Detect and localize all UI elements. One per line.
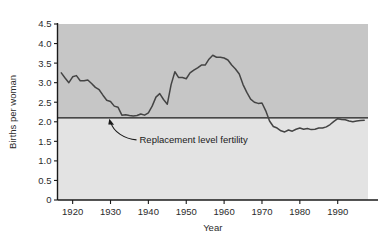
chart-canvas: 00.51.01.52.02.53.03.54.04.5 19201930194… xyxy=(0,0,390,245)
x-tick-label: 1950 xyxy=(176,206,197,217)
x-tick-label: 1990 xyxy=(327,206,348,217)
x-tick-label: 1960 xyxy=(214,206,235,217)
y-axis-tick-labels: 00.51.01.52.02.53.03.54.04.5 xyxy=(38,18,51,205)
y-tick-label: 1.0 xyxy=(38,155,51,166)
x-tick-label: 1940 xyxy=(138,206,159,217)
y-tick-label: 3.5 xyxy=(38,58,51,69)
y-tick-label: 2.0 xyxy=(38,116,51,127)
x-tick-label: 1920 xyxy=(62,206,83,217)
x-tick-label: 1970 xyxy=(251,206,272,217)
background-bands xyxy=(58,24,369,200)
x-axis-title: Year xyxy=(203,222,222,233)
x-tick-label: 1980 xyxy=(289,206,310,217)
y-tick-label: 3.0 xyxy=(38,77,51,88)
replacement-level-annotation-label: Replacement level fertility xyxy=(140,134,248,145)
y-tick-label: 4.5 xyxy=(38,18,51,29)
fertility-rate-chart: 00.51.01.52.02.53.03.54.04.5 19201930194… xyxy=(0,0,390,245)
y-axis-title: Births per woman xyxy=(7,75,18,149)
y-tick-label: 0.5 xyxy=(38,175,51,186)
y-tick-label: 1.5 xyxy=(38,136,51,147)
y-tick-label: 2.5 xyxy=(38,97,51,108)
y-tick-label: 0 xyxy=(46,194,51,205)
x-axis-tick-labels: 19201930194019501960197019801990 xyxy=(62,206,348,217)
y-tick-label: 4.0 xyxy=(38,38,51,49)
x-tick-label: 1930 xyxy=(100,206,121,217)
